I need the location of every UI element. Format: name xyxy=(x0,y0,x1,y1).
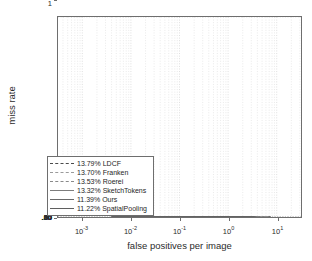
legend-swatch xyxy=(50,177,74,186)
chart-root: 1.80.64.50.40.30.20.10.05 10-310-210-110… xyxy=(0,0,312,261)
y-axis-title: miss rate xyxy=(6,71,17,141)
chart-legend: 13.79% LDCF13.70% Franken13.53% Roerei13… xyxy=(47,156,154,216)
x-axis-title: false positives per image xyxy=(57,240,302,251)
y-tick-label: 1 xyxy=(18,0,52,8)
legend-item-roerei: 13.53% Roerei xyxy=(50,177,150,186)
x-tick-mark xyxy=(229,218,230,221)
legend-swatch xyxy=(50,195,74,204)
legend-item-franken: 13.70% Franken xyxy=(50,168,150,177)
legend-swatch xyxy=(50,186,74,195)
x-tick-mark xyxy=(131,218,132,221)
legend-label: 13.32% SketchTokens xyxy=(77,186,146,195)
legend-swatch xyxy=(50,168,74,177)
legend-label: 13.79% LDCF xyxy=(77,159,121,168)
x-tick-mark xyxy=(82,218,83,221)
x-tick-label: 10-2 xyxy=(114,224,148,236)
legend-label: 11.39% Ours xyxy=(77,195,117,204)
legend-label: 11.22% SpatialPooling xyxy=(77,204,147,213)
legend-item-spatialpooling: 11.22% SpatialPooling xyxy=(50,204,150,213)
legend-item-ldcf: 13.79% LDCF xyxy=(50,159,150,168)
x-tick-mark xyxy=(278,218,279,221)
y-tick-mark xyxy=(54,218,57,219)
legend-item-sketchtokens: 13.32% SketchTokens xyxy=(50,186,150,195)
x-tick-label: 10-3 xyxy=(65,224,99,236)
legend-label: 13.70% Franken xyxy=(77,168,128,177)
x-tick-label: 100 xyxy=(212,224,246,236)
x-tick-label: 10-1 xyxy=(163,224,197,236)
x-tick-label: 101 xyxy=(261,224,295,236)
y-tick-mark xyxy=(54,0,57,1)
x-tick-mark xyxy=(180,218,181,221)
legend-label: 13.53% Roerei xyxy=(77,177,123,186)
legend-item-ours: 11.39% Ours xyxy=(50,195,150,204)
legend-swatch xyxy=(50,159,74,168)
legend-swatch xyxy=(50,204,74,213)
